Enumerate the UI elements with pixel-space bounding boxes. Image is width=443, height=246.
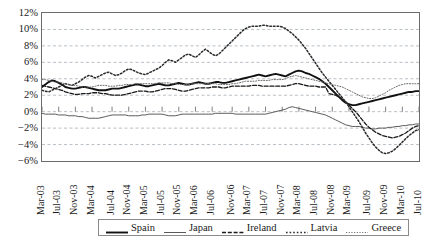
y-tick-label: −6% (18, 156, 38, 166)
series-lines (42, 25, 419, 153)
y-tick-label: 10% (19, 24, 38, 34)
legend-item-japan[interactable]: Japan (164, 222, 213, 233)
y-tick-label: −4% (18, 140, 38, 150)
y-tick-label: 0% (24, 107, 38, 117)
x-tick-label: Jul-04 (106, 190, 116, 215)
x-tick-label: Nov-08 (326, 184, 336, 215)
x-tick-label: Nov-06 (226, 184, 236, 215)
y-tick-label: 4% (24, 74, 38, 84)
plot-area (41, 12, 420, 162)
legend-item-ireland[interactable]: Ireland (222, 222, 277, 233)
legend-label: Spain (131, 222, 155, 233)
x-tick-label: Jul-09 (362, 190, 372, 215)
x-axis-tick-labels: Mar-03Jul-03Nov-03Mar-04Jul-04Nov-04Mar-… (41, 163, 420, 215)
x-tick-label: Nov-03 (69, 184, 79, 215)
x-tick-label: Nov-07 (276, 184, 286, 215)
x-tick-label: Mar-03 (36, 185, 46, 215)
legend-key-icon (164, 223, 186, 232)
x-tick-label: Mar-06 (189, 185, 199, 215)
y-axis-tick-labels: 12%10%8%6%4%2%0%−2%−4%−6% (0, 0, 40, 175)
legend-item-spain[interactable]: Spain (106, 222, 155, 233)
legend-label: Japan (189, 222, 213, 233)
legend-label: Latvia (311, 222, 338, 233)
y-tick-label: 2% (24, 90, 38, 100)
legend-item-greece[interactable]: Greece (346, 222, 401, 233)
legend-key-icon (106, 223, 128, 232)
x-tick-label: Jul-06 (206, 190, 216, 215)
x-tick-label: Jul-08 (309, 190, 319, 215)
y-tick-label: 12% (19, 8, 38, 18)
x-tick-label: Jul-07 (259, 190, 269, 215)
x-tick-label: Mar-04 (86, 185, 96, 215)
series-line-japan (42, 107, 419, 129)
y-tick-label: −2% (18, 123, 38, 133)
plot-svg (42, 13, 419, 161)
x-tick-label: Nov-09 (379, 184, 389, 215)
x-tick-label: Mar-07 (242, 185, 252, 215)
legend-item-latvia[interactable]: Latvia (286, 222, 338, 233)
x-tick-label: Mar-10 (396, 185, 406, 215)
legend-label: Ireland (247, 222, 277, 233)
x-axis-ticks (42, 107, 419, 112)
legend-key-icon (286, 223, 308, 232)
chart-legend: SpainJapanIrelandLatviaGreece (98, 219, 409, 236)
y-tick-label: 6% (24, 57, 38, 67)
x-tick-label: Mar-05 (139, 185, 149, 215)
series-line-ireland (42, 84, 419, 138)
legend-key-icon (346, 223, 368, 232)
y-tick-label: 8% (24, 41, 38, 51)
x-tick-label: Jul-05 (156, 190, 166, 215)
x-tick-label: Jul-03 (52, 190, 62, 215)
x-tick-label: Mar-08 (292, 185, 302, 215)
chart-container: 12%10%8%6%4%2%0%−2%−4%−6% Mar-03Jul-03No… (0, 0, 443, 246)
legend-key-icon (222, 223, 244, 232)
legend-label: Greece (371, 222, 401, 233)
x-tick-label: Nov-04 (122, 184, 132, 215)
x-tick-label: Nov-05 (172, 184, 182, 215)
x-tick-label: Jul-10 (413, 190, 423, 215)
x-tick-label: Mar-09 (342, 185, 352, 215)
